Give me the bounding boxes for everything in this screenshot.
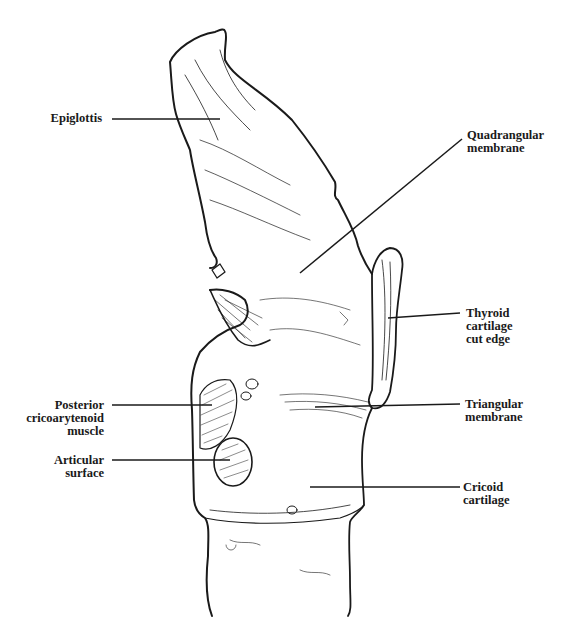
articular-surface-outline: [214, 438, 252, 486]
larynx-body-outline: [191, 289, 247, 616]
label-posterior-cricoarytenoid-muscle: Posterior cricoarytenoid muscle: [10, 399, 104, 438]
thyroid-cartilage-outline: [369, 248, 403, 408]
leader-triangular-membrane: [315, 404, 460, 407]
epiglottis-outline: [170, 29, 372, 274]
label-thyroid-cartilage-cut-edge: Thyroid cartilage cut edge: [466, 307, 558, 346]
label-quadrangular-membrane: Quadrangular membrane: [467, 129, 559, 155]
label-cricoid-cartilage: Cricoid cartilage: [463, 481, 555, 507]
label-triangular-membrane: Triangular membrane: [465, 398, 557, 424]
label-articular-surface: Articular surface: [20, 454, 104, 480]
larynx-diagram: Epiglottis Quadrangular membrane Thyroid…: [0, 0, 561, 636]
leader-thyroid-cartilage-cut-edge: [388, 313, 460, 318]
label-epiglottis: Epiglottis: [30, 112, 102, 125]
